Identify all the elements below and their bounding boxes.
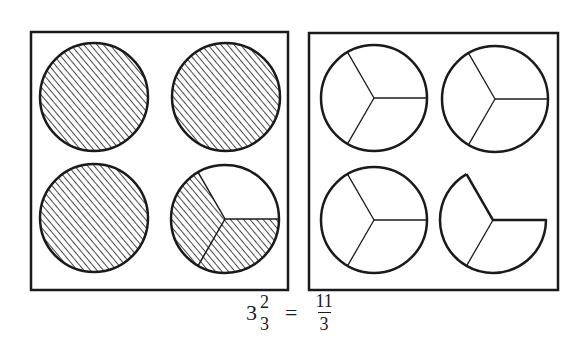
whole-circle-1 xyxy=(40,43,148,151)
mixed-whole: 3 xyxy=(246,300,257,326)
thirds-circle-2 xyxy=(442,46,548,152)
equals-sign: = xyxy=(285,300,297,326)
equation: 3 2 3 = 11 3 xyxy=(246,292,335,333)
left-panel xyxy=(31,32,288,290)
improper-denominator: 3 xyxy=(318,312,331,333)
improper-fraction: 11 3 xyxy=(313,292,334,333)
right-panel xyxy=(309,33,558,290)
mixed-denominator: 3 xyxy=(258,313,271,333)
improper-numerator: 11 xyxy=(313,292,334,312)
whole-circle-3 xyxy=(40,164,148,272)
thirds-circle-1 xyxy=(321,45,427,151)
two-thirds-pieces xyxy=(440,174,546,273)
whole-circle-2 xyxy=(172,43,280,151)
mixed-numerator: 2 xyxy=(258,293,271,313)
mixed-fraction: 2 3 xyxy=(258,293,271,333)
right-panel-frame xyxy=(309,33,558,290)
partial-circle-two-thirds xyxy=(171,165,279,273)
thirds-circle-3 xyxy=(321,167,427,273)
